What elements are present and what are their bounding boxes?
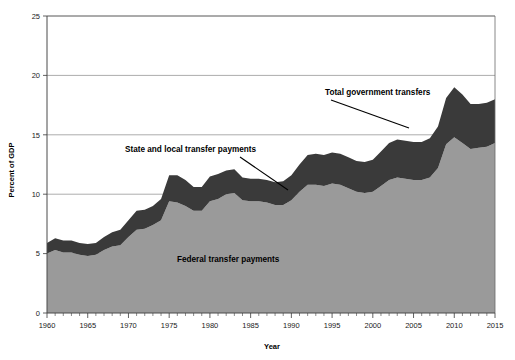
x-tick-label-2000: 2000	[364, 321, 381, 330]
x-axis-title: Year	[264, 342, 280, 351]
x-tick-label-2010: 2010	[446, 321, 463, 330]
x-tick-label-1975: 1975	[161, 321, 178, 330]
y-tick-label-10: 10	[32, 190, 40, 199]
x-tick-label-1965: 1965	[79, 321, 96, 330]
transfer-payments-area-chart: 0510152025 19601965197019751980198519901…	[0, 0, 515, 360]
y-tick-label-0: 0	[36, 309, 40, 318]
x-tick-label-2015: 2015	[487, 321, 504, 330]
x-tick-label-1995: 1995	[324, 321, 341, 330]
x-tick-label-1985: 1985	[242, 321, 259, 330]
y-tick-label-5: 5	[36, 249, 40, 258]
annotation-label-total-government-transfers: Total government transfers	[325, 88, 431, 97]
y-axis-title: Percent of GDP	[7, 142, 16, 197]
x-tick-label-2005: 2005	[405, 321, 422, 330]
x-tick-label-1980: 1980	[202, 321, 219, 330]
annotation-label-federal-transfer-payments: Federal transfer payments	[177, 255, 280, 264]
y-tick-label-25: 25	[32, 12, 40, 21]
x-tick-label-1970: 1970	[120, 321, 137, 330]
chart-container: 0510152025 19601965197019751980198519901…	[0, 0, 515, 360]
y-tick-label-20: 20	[32, 71, 40, 80]
x-tick-label-1990: 1990	[283, 321, 300, 330]
annotation-label-state-and-local-transfer-payments: State and local transfer payments	[125, 145, 256, 154]
y-tick-label-15: 15	[32, 131, 40, 140]
x-tick-label-1960: 1960	[39, 321, 56, 330]
